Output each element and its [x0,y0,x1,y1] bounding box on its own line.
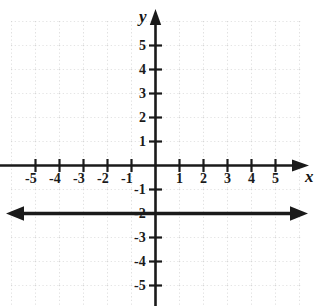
y-tick-label-5: 5 [139,39,146,53]
x-tick-label-1: 1 [176,172,183,186]
x-tick-label-4: 4 [248,172,255,186]
x-tick-label-3: 3 [224,172,231,186]
x-tick-label-5: 5 [272,172,279,186]
y-tick-label-2: 2 [139,111,146,125]
y-tick-label-1: 1 [139,135,146,149]
coordinate-plane-graph [0,0,320,306]
y-tick-label--4: -4 [134,255,146,269]
x-tick-label--3: -3 [73,172,85,186]
y-tick-label-4: 4 [139,63,146,77]
y-tick-label--2: -2 [134,207,146,221]
x-tick-label--1: -1 [121,172,133,186]
x-axis-label: x [305,168,314,185]
x-tick-label--4: -4 [49,172,61,186]
y-tick-label--5: -5 [134,279,146,293]
y-tick-label-3: 3 [139,87,146,101]
y-axis-label: y [139,8,147,25]
x-tick-label-2: 2 [200,172,207,186]
x-tick-label--2: -2 [97,172,109,186]
y-tick-label--3: -3 [134,231,146,245]
x-tick-label--5: -5 [25,172,37,186]
y-tick-label--1: -1 [134,183,146,197]
